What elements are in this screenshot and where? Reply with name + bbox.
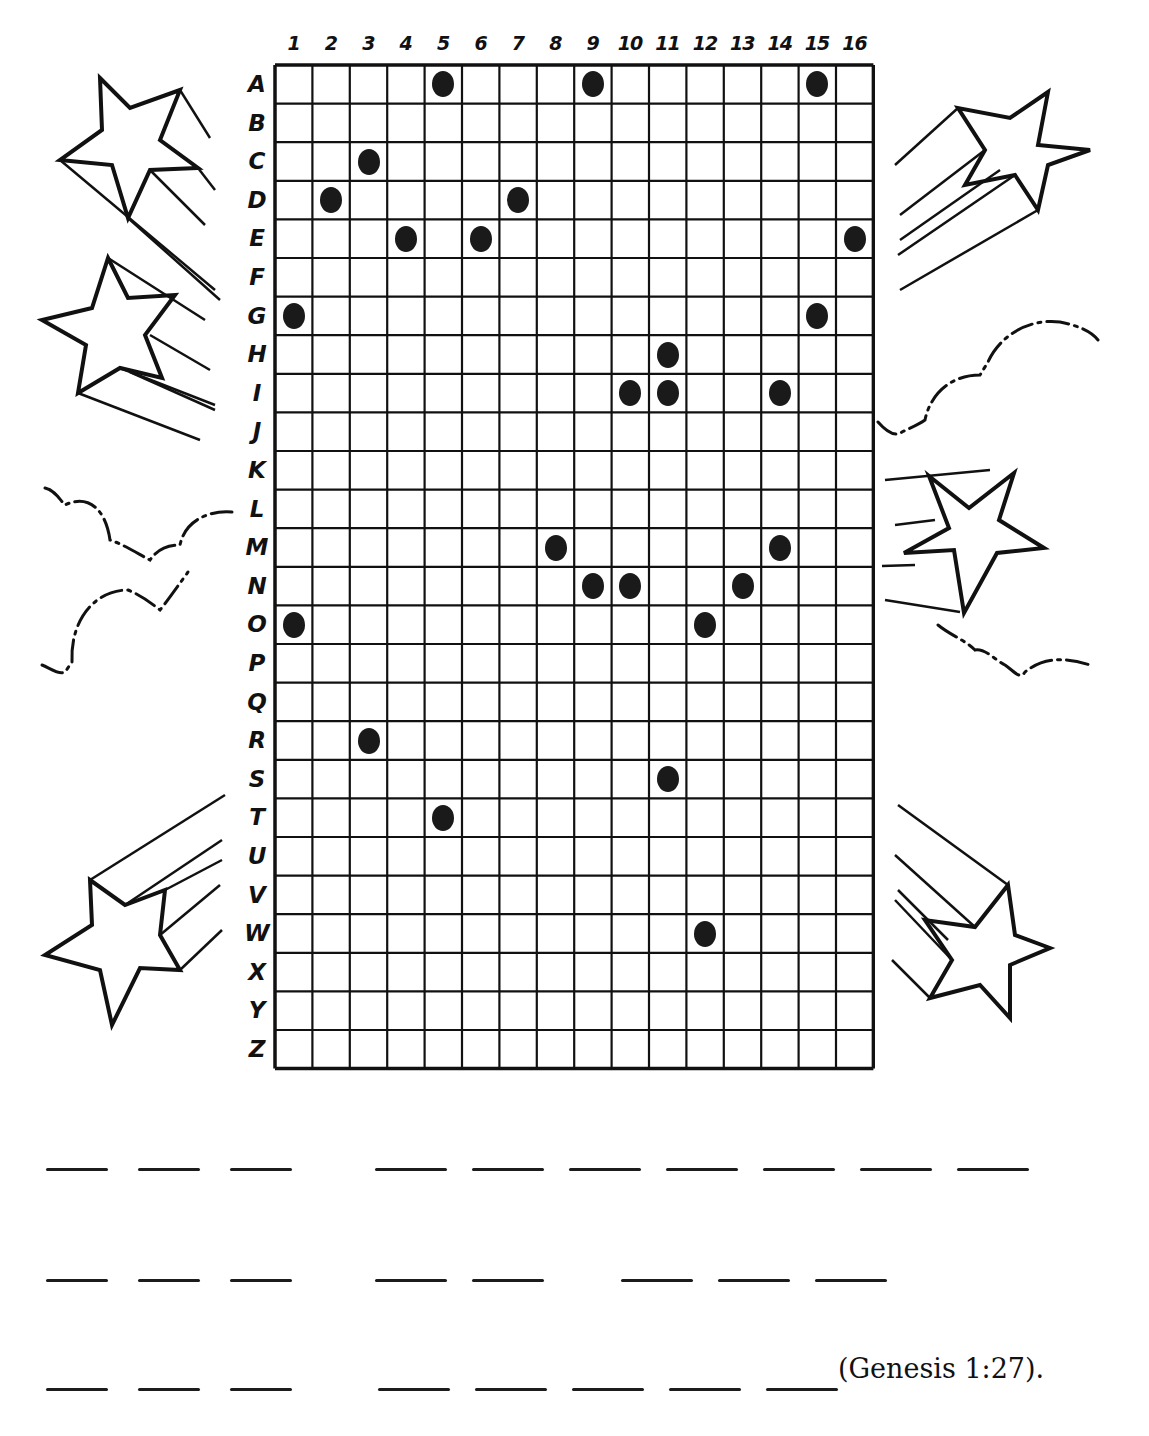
- answer-blank[interactable]: [815, 1279, 887, 1282]
- grid-dot-C3: [358, 149, 380, 175]
- row-label: V: [244, 884, 270, 907]
- row-label: Z: [244, 1038, 270, 1061]
- answer-blank[interactable]: [46, 1168, 108, 1171]
- answer-blank[interactable]: [375, 1279, 447, 1282]
- grid-dot-G1: [283, 303, 305, 329]
- row-label: G: [244, 305, 270, 328]
- answer-blank[interactable]: [138, 1279, 200, 1282]
- row-label: H: [244, 343, 270, 366]
- row-label: T: [244, 806, 270, 829]
- grid-dot-W12: [694, 921, 716, 947]
- row-label: O: [244, 613, 270, 636]
- column-label: 12: [686, 34, 723, 53]
- row-label: J: [244, 420, 270, 443]
- shooting-star-icon: [892, 805, 1050, 1018]
- grid-dot-N9: [582, 573, 604, 599]
- row-label: X: [244, 961, 270, 984]
- grid-dot-A9: [582, 71, 604, 97]
- row-label: S: [244, 768, 270, 791]
- column-label: 11: [649, 34, 686, 53]
- column-label: 1: [275, 34, 312, 53]
- row-label: A: [244, 73, 270, 96]
- grid-dot-O12: [694, 612, 716, 638]
- grid-dot-D2: [320, 187, 342, 213]
- column-label: 10: [612, 34, 649, 53]
- column-label: 9: [574, 34, 611, 53]
- grid-dot-D7: [507, 187, 529, 213]
- column-label: 5: [425, 34, 462, 53]
- row-label: D: [244, 189, 270, 212]
- answer-blank[interactable]: [957, 1168, 1029, 1171]
- shooting-star-icon: [882, 470, 1044, 613]
- column-label: 14: [761, 34, 798, 53]
- grid-dot-E16: [844, 226, 866, 252]
- grid-dot-M8: [545, 535, 567, 561]
- column-label: 2: [312, 34, 349, 53]
- grid-dot-I14: [769, 380, 791, 406]
- answer-blank[interactable]: [669, 1388, 741, 1391]
- answer-blank[interactable]: [138, 1168, 200, 1171]
- answer-blank[interactable]: [766, 1388, 838, 1391]
- row-label: Y: [244, 999, 270, 1022]
- cloud-outline-icon: [878, 321, 1098, 434]
- row-label: N: [244, 575, 270, 598]
- shooting-star-icon: [42, 258, 215, 440]
- answer-blank[interactable]: [621, 1279, 693, 1282]
- shooting-star-icon: [45, 795, 225, 1025]
- answer-blank[interactable]: [230, 1168, 292, 1171]
- answer-blank[interactable]: [472, 1168, 544, 1171]
- answer-blank[interactable]: [138, 1388, 200, 1391]
- row-label: K: [244, 459, 270, 482]
- answer-blank[interactable]: [718, 1279, 790, 1282]
- row-label: U: [244, 845, 270, 868]
- grid-dot-S11: [657, 766, 679, 792]
- grid-dot-I11: [657, 380, 679, 406]
- shooting-star-icon: [60, 78, 220, 300]
- row-label: B: [244, 112, 270, 135]
- grid-dot-T5: [432, 805, 454, 831]
- row-label: P: [244, 652, 270, 675]
- answer-blank[interactable]: [230, 1388, 292, 1391]
- answer-blank[interactable]: [46, 1279, 108, 1282]
- column-label: 7: [499, 34, 536, 53]
- answer-blank[interactable]: [572, 1388, 644, 1391]
- cloud-outline-icon: [938, 625, 1090, 675]
- row-label: I: [244, 382, 270, 405]
- grid-dot-N13: [732, 573, 754, 599]
- answer-blank[interactable]: [378, 1388, 450, 1391]
- column-label: 15: [799, 34, 836, 53]
- column-label: 16: [836, 34, 873, 53]
- grid-dot-E6: [470, 226, 492, 252]
- answer-blank[interactable]: [472, 1279, 544, 1282]
- row-label: C: [244, 150, 270, 173]
- column-label: 13: [724, 34, 761, 53]
- answer-blank[interactable]: [569, 1168, 641, 1171]
- row-label: E: [244, 227, 270, 250]
- column-label: 8: [537, 34, 574, 53]
- column-label: 3: [350, 34, 387, 53]
- cloud-outline-icon: [45, 488, 232, 560]
- grid-dot-E4: [395, 226, 417, 252]
- row-label: M: [244, 536, 270, 559]
- column-label: 6: [462, 34, 499, 53]
- row-label: F: [244, 266, 270, 289]
- grid-lines: [273, 63, 875, 1071]
- answer-blank[interactable]: [666, 1168, 738, 1171]
- row-label: L: [244, 498, 270, 521]
- cloud-outline-icon: [42, 572, 188, 673]
- grid-dot-H11: [657, 342, 679, 368]
- column-label: 4: [387, 34, 424, 53]
- shooting-star-icon: [895, 92, 1090, 290]
- answer-blank[interactable]: [230, 1279, 292, 1282]
- scripture-reference: (Genesis 1:27).: [838, 1353, 1044, 1384]
- answer-blank[interactable]: [475, 1388, 547, 1391]
- row-label: Q: [244, 691, 270, 714]
- row-label: W: [244, 922, 270, 945]
- puzzle-grid: [273, 63, 875, 1075]
- answer-blank[interactable]: [46, 1388, 108, 1391]
- answer-blank[interactable]: [763, 1168, 835, 1171]
- answer-blank[interactable]: [375, 1168, 447, 1171]
- grid-dot-M14: [769, 535, 791, 561]
- answer-blank[interactable]: [860, 1168, 932, 1171]
- row-label: R: [244, 729, 270, 752]
